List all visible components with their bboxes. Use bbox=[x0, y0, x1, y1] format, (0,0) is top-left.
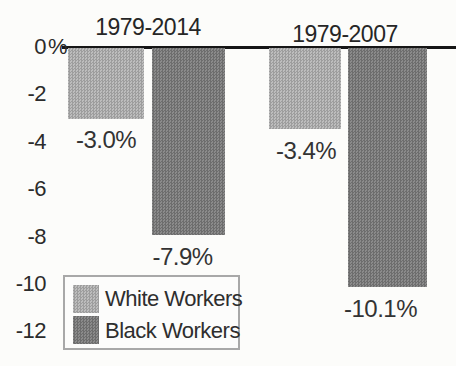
bar-value-white-workers-1979-2014: -3.0% bbox=[76, 126, 136, 154]
bar-black-workers-1979-2014 bbox=[152, 48, 225, 235]
bar-value-white-workers-1979-2007: -3.4% bbox=[276, 137, 336, 165]
group-label-1979-2014: 1979-2014 bbox=[78, 14, 218, 41]
y-axis-tick--2: -2 bbox=[0, 83, 46, 105]
legend-swatch-black-workers bbox=[73, 316, 99, 344]
bar-black-workers-1979-2007 bbox=[348, 48, 427, 287]
legend: White Workers Black Workers bbox=[63, 275, 240, 350]
y-axis-tick--8: -8 bbox=[0, 226, 46, 248]
bar-white-workers-1979-2014 bbox=[68, 48, 144, 119]
legend-label-white-workers: White Workers bbox=[105, 286, 242, 312]
bar-value-black-workers-1979-2007: -10.1% bbox=[344, 295, 417, 323]
bar-chart: 1979-2014 1979-2007 0%-2-4-6-8-10-12 -3.… bbox=[0, 0, 456, 366]
bar-white-workers-1979-2007 bbox=[269, 48, 341, 129]
y-axis-tick--6: -6 bbox=[0, 178, 46, 200]
y-axis-tick--4: -4 bbox=[0, 131, 46, 153]
y-axis-tick--10: -10 bbox=[0, 273, 46, 295]
legend-swatch-white-workers bbox=[73, 285, 99, 313]
group-label-1979-2007: 1979-2007 bbox=[275, 21, 415, 48]
bar-value-black-workers-1979-2014: -7.9% bbox=[152, 243, 212, 271]
y-axis-tick--12: -12 bbox=[0, 320, 46, 342]
legend-label-black-workers: Black Workers bbox=[105, 318, 240, 344]
y-axis-tick-0: 0% bbox=[0, 36, 46, 58]
